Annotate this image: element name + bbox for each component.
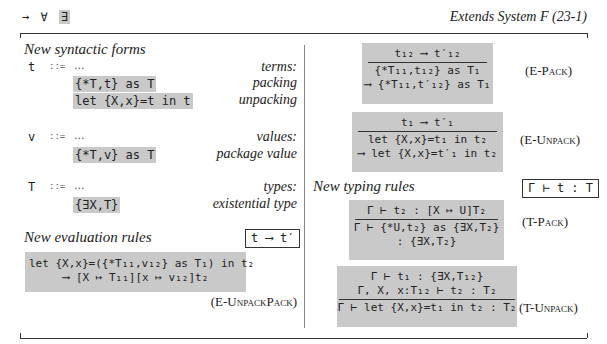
rule-e-pack: t₁₂ ⟶ t′₁₂ {*T₁₁,t₁₂} as T₁ ⟶ {*T₁₁,t′₁₂… (362, 43, 493, 104)
column-divider (304, 45, 305, 328)
bottom-rule (20, 338, 587, 339)
defsym: ::= (49, 181, 65, 191)
form-description: unpacking (239, 92, 297, 108)
rule-conclusion-line: ⟶ let {X,x}=t′₁ in t₂ (352, 147, 503, 161)
rule-conclusion-line: {*T₁₁,t₁₂} as T₁ (362, 64, 493, 78)
figure-title: Extends System F (23-1) (450, 9, 587, 25)
system-nav: → ∀ ∃ (22, 10, 70, 24)
category-label: types: (264, 179, 297, 195)
top-left-tick (20, 33, 21, 38)
rule-e-unpack: t₁ ⟶ t′₁ let {X,x}=t₁ in t₂ ⟶ let {X,x}=… (352, 112, 503, 172)
rule-name-e-unpackpack: (E-UnpackPack) (211, 294, 297, 310)
rule-premise-line: Γ, X, x:T₁₂ ⊢ t₂ : T₂ (337, 284, 517, 298)
rule-premise-line: t₁ ⟶ t′₁ (352, 116, 503, 130)
rule-conclusion-line: Γ ⊢ {*U,t₂} as {∃X,T₂} (349, 221, 504, 235)
top-right-tick (587, 33, 588, 38)
syntax-heading: New syntactic forms (24, 41, 146, 58)
rule-conclusion-line: : {∃X,T₂} (349, 235, 504, 249)
metavar-T: T (28, 180, 35, 194)
category-label: terms: (261, 59, 297, 75)
nav-exists-symbol[interactable]: ∃ (59, 10, 70, 24)
rule-premise-line: Γ ⊢ t₁ : {∃X,T₁₂} (337, 270, 517, 284)
code-form: {∃X,T} (73, 197, 120, 213)
typing-heading: New typing rules (313, 178, 415, 195)
typing-judgment-box: Γ ⊢ t : T (522, 179, 599, 198)
ellipsis: ... (74, 129, 85, 142)
rule-premise-line: t₁₂ ⟶ t′₁₂ (362, 47, 493, 61)
rule-t-unpack: Γ ⊢ t₁ : {∃X,T₁₂} Γ, X, x:T₁₂ ⊢ t₂ : T₂ … (337, 266, 517, 327)
evaluation-judgment-box: t ⟶ t′ (245, 229, 300, 248)
inference-bar (358, 131, 497, 132)
rule-premise-line: Γ ⊢ t₂ : [X ↦ U]T₂ (349, 204, 504, 218)
metavar-v: v (28, 130, 35, 144)
metavar-t: t (28, 60, 35, 74)
form-description: package value (217, 146, 297, 162)
code-form: {*T,t} as T (73, 76, 156, 92)
rule-conclusion-line: Γ ⊢ let {X,x}=t₁ in t₂ : T₂ (337, 301, 517, 315)
nav-forall-symbol[interactable]: ∀ (40, 10, 47, 24)
inference-bar (368, 62, 487, 63)
top-rule (20, 33, 587, 34)
inference-bar (355, 219, 498, 220)
rule-conclusion-line: ⟶ {*T₁₁,t′₁₂} as T₁ (362, 78, 493, 92)
rule-t-pack: Γ ⊢ t₂ : [X ↦ U]T₂ Γ ⊢ {*U,t₂} as {∃X,T₂… (349, 200, 504, 260)
code-form: let {X,x}=t in t (73, 93, 193, 109)
rule-name-e-pack: (E-Pack) (525, 63, 572, 79)
rule-conclusion-line: let {X,x}=({*T₁₁,v₁₂} as T₁) in t₂ (25, 257, 246, 271)
nav-arrow-symbol[interactable]: → (22, 10, 29, 24)
rule-name-t-unpack: (T-Unpack) (519, 300, 578, 316)
rule-e-unpackpack: let {X,x}=({*T₁₁,v₁₂} as T₁) in t₂ ⟶ [X … (25, 252, 246, 292)
code-form: {*T,v} as T (73, 147, 156, 163)
rule-conclusion-line: let {X,x}=t₁ in t₂ (352, 133, 503, 147)
defsym: ::= (49, 61, 65, 71)
category-label: values: (257, 129, 297, 145)
form-description: existential type (213, 196, 297, 212)
ellipsis: ... (74, 59, 85, 72)
bottom-right-tick (587, 333, 588, 338)
rule-conclusion-line: ⟶ [X ↦ T₁₁][x ↦ v₁₂]t₂ (25, 271, 246, 285)
rule-name-t-pack: (T-Pack) (522, 214, 568, 230)
form-description: packing (253, 75, 297, 91)
rule-name-e-unpack: (E-Unpack) (520, 132, 580, 148)
bottom-left-tick (20, 333, 21, 338)
ellipsis: ... (74, 179, 85, 192)
defsym: ::= (49, 131, 65, 141)
evaluation-heading: New evaluation rules (24, 229, 152, 246)
inference-bar (339, 299, 515, 300)
